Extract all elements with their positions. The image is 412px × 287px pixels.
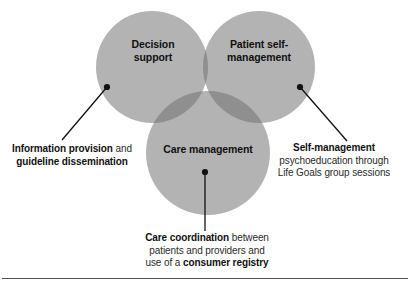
venn-diagram-figure: Decision support Patient self- managemen… bbox=[0, 0, 412, 287]
bottom-divider-rule bbox=[2, 278, 408, 279]
callout-information-provision-bold-lead: Information provision bbox=[12, 143, 113, 154]
callout-self-management-bold-lead: Self-management bbox=[293, 142, 375, 153]
callout-care-coordination-line3-pre: use of a bbox=[145, 257, 182, 268]
callout-information-provision-rest: and bbox=[113, 143, 132, 154]
callout-information-provision: Information provision and guideline diss… bbox=[2, 143, 142, 168]
callout-self-management: Self-management psychoeducation through … bbox=[258, 142, 410, 180]
circle-label-care-management: Care management bbox=[145, 143, 271, 156]
callout-care-coordination-line2: patients and providers and bbox=[149, 245, 264, 256]
callout-care-coordination-bold-lead: Care coordination bbox=[145, 232, 229, 243]
circle-label-patient-self-management: Patient self- management bbox=[207, 38, 311, 63]
callout-self-management-line3: Life Goals group sessions bbox=[278, 167, 391, 178]
callout-self-management-line2: psychoeducation through bbox=[279, 155, 388, 166]
callout-care-coordination-rest: between bbox=[229, 232, 269, 243]
leader-line-self-management bbox=[297, 84, 347, 141]
callout-care-coordination: Care coordination between patients and p… bbox=[124, 232, 290, 270]
callout-care-coordination-line3-bold: consumer registry bbox=[183, 257, 269, 268]
leader-line-information-provision bbox=[62, 84, 110, 140]
callout-information-provision-line2: guideline dissemination bbox=[16, 156, 128, 167]
circle-label-decision-support: Decision support bbox=[108, 38, 198, 63]
